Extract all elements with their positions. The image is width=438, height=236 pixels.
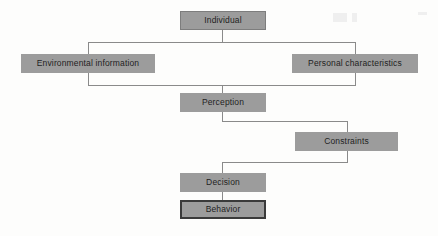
node-constraints[interactable]: Constraints bbox=[295, 132, 398, 151]
edge-constraints-to-decision-run bbox=[222, 162, 348, 163]
edge-merge-right-rise bbox=[355, 72, 356, 86]
node-individual[interactable]: Individual bbox=[180, 11, 266, 30]
node-perception[interactable]: Perception bbox=[180, 93, 266, 112]
scan-artifact bbox=[352, 13, 357, 22]
node-personal-characteristics-label: Personal characteristics bbox=[308, 59, 402, 68]
node-individual-label: Individual bbox=[204, 16, 241, 25]
edge-perception-to-constraints-run bbox=[222, 121, 348, 122]
node-behavior[interactable]: Behavior bbox=[180, 200, 266, 219]
node-environmental-information-label: Environmental information bbox=[37, 59, 140, 68]
node-personal-characteristics[interactable]: Personal characteristics bbox=[292, 54, 418, 73]
scan-artifact bbox=[418, 12, 427, 15]
node-constraints-label: Constraints bbox=[324, 137, 369, 146]
node-perception-label: Perception bbox=[202, 98, 244, 107]
node-environmental-information[interactable]: Environmental information bbox=[21, 54, 155, 73]
node-decision[interactable]: Decision bbox=[180, 173, 266, 192]
node-decision-label: Decision bbox=[206, 178, 240, 187]
flowchart-diagram: Individual Environmental information Per… bbox=[0, 0, 438, 236]
edge-merge-left-rise bbox=[88, 72, 89, 86]
node-behavior-label: Behavior bbox=[206, 205, 241, 214]
scan-artifact bbox=[333, 13, 347, 22]
edge-split-bus bbox=[88, 42, 356, 43]
